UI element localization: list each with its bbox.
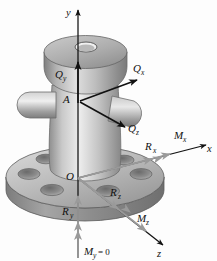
moment-label-mx-sub: x	[182, 135, 187, 144]
force-label-qz-base: Q	[128, 122, 136, 134]
moment-my-arrow	[74, 222, 82, 258]
point-label-o: O	[66, 170, 74, 182]
force-label-qy-sub: y	[62, 74, 67, 83]
force-label-qy-base: Q	[55, 68, 63, 80]
force-label-qx: Q x	[133, 62, 145, 77]
force-label-qz-sub: z	[135, 128, 139, 137]
axis-label-y: y	[65, 7, 71, 18]
moment-label-my-sub: y	[92, 251, 97, 260]
force-label-qx-base: Q	[133, 62, 141, 74]
axis-label-z: z	[156, 248, 161, 259]
reaction-label-ry-sub: y	[69, 211, 74, 220]
free-body-diagram: y x z A O Q y Q x Q z R x R y	[0, 0, 217, 261]
force-label-qx-sub: x	[140, 68, 145, 77]
bolt-hole	[18, 169, 40, 180]
bollard-head-hole-inner	[78, 44, 95, 51]
bolt-hole	[41, 184, 64, 195]
reaction-label-rx-base: R	[144, 140, 152, 152]
reaction-label-rz-base: R	[109, 186, 117, 198]
point-label-a: A	[62, 93, 70, 105]
force-label-qz: Q z	[128, 122, 139, 137]
figure-canvas: y x z A O Q y Q x Q z R x R y	[0, 0, 217, 261]
moment-label-mx: M x	[173, 129, 187, 144]
reaction-label-rz-sub: z	[117, 192, 121, 201]
moment-label-my: M y = 0	[83, 245, 110, 260]
bollard-horn-left	[17, 92, 56, 118]
bollard-horn-right	[108, 96, 142, 127]
reaction-label-ry-base: R	[61, 205, 69, 217]
moment-label-mz-sub: z	[145, 218, 149, 227]
moment-label-my-value: = 0	[98, 247, 110, 257]
reaction-label-rx: R x	[144, 140, 157, 155]
reaction-label-rx-sub: x	[152, 146, 157, 155]
bolt-hole	[130, 169, 152, 180]
axis-label-x: x	[206, 143, 212, 154]
